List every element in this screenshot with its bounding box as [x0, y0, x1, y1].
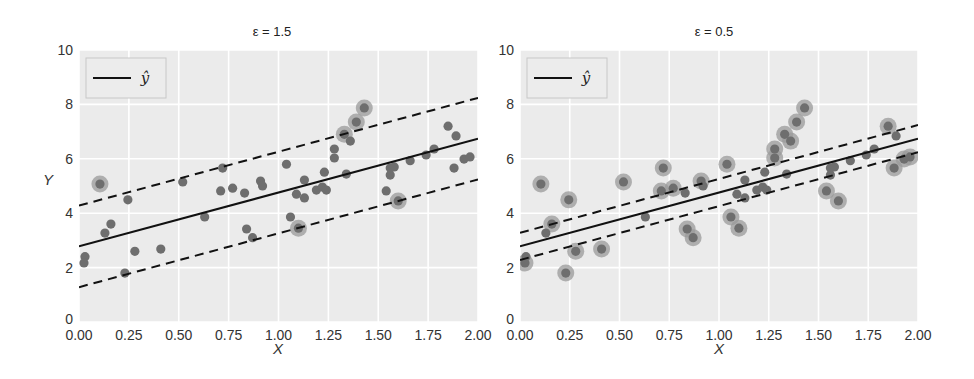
figure: ε = 1.5 0.000.250.500.751.001.251.501.75…: [0, 0, 974, 379]
data-point: [286, 212, 295, 221]
data-point: [382, 186, 391, 195]
data-point: [770, 144, 779, 153]
data-point: [564, 195, 573, 204]
data-point: [734, 224, 743, 233]
data-point: [218, 163, 227, 172]
data-point: [698, 181, 707, 190]
data-point: [760, 168, 769, 177]
x-tick-label: 1.25: [315, 327, 342, 343]
data-point: [792, 117, 801, 126]
legend-label: ŷ: [581, 69, 591, 87]
data-point: [79, 258, 88, 267]
x-tick-label: 0.25: [115, 327, 142, 343]
data-point: [216, 186, 225, 195]
y-tick-label: 2: [506, 260, 514, 276]
data-point: [830, 162, 839, 171]
data-point: [95, 179, 104, 188]
x-axis-label: X: [272, 340, 284, 357]
data-point: [770, 153, 779, 162]
data-point: [346, 137, 355, 146]
data-point: [822, 186, 831, 195]
y-tick-labels: 0246810: [57, 42, 73, 327]
data-point: [571, 247, 580, 256]
data-point: [465, 152, 474, 161]
y-tick-label: 6: [506, 151, 514, 167]
data-point: [258, 181, 267, 190]
y-tick-label: 10: [498, 42, 514, 58]
x-tick-label: 1.50: [805, 327, 832, 343]
x-tick-label: 0.00: [506, 327, 533, 343]
y-tick-label: 4: [65, 205, 73, 221]
data-point: [322, 185, 331, 194]
x-tick-label: 2.00: [904, 327, 931, 343]
y-tick-labels: 0246810: [498, 42, 514, 327]
data-point: [561, 268, 570, 277]
x-tick-label: 1.50: [365, 327, 392, 343]
y-tick-label: 8: [506, 96, 514, 112]
data-point: [292, 190, 301, 199]
data-point: [443, 122, 452, 131]
panel-epsilon-1-5: ε = 1.5 0.000.250.500.751.001.251.501.75…: [43, 24, 492, 357]
x-tick-label: 0.75: [656, 327, 683, 343]
panel-title: ε = 1.5: [253, 24, 292, 39]
data-point: [242, 224, 251, 233]
data-point: [360, 103, 369, 112]
legend: ŷ: [86, 58, 166, 98]
y-tick-label: 0: [65, 311, 73, 327]
data-point: [390, 162, 399, 171]
data-point: [732, 190, 741, 199]
x-tick-label: 0.00: [65, 327, 92, 343]
data-point: [541, 228, 550, 237]
data-point: [800, 103, 809, 112]
data-point: [130, 247, 139, 256]
data-point: [156, 245, 165, 254]
data-point: [228, 184, 237, 193]
data-point: [123, 195, 132, 204]
x-tick-label: 0.75: [215, 327, 242, 343]
data-point: [659, 163, 668, 172]
data-point: [178, 177, 187, 186]
data-point: [726, 212, 735, 221]
x-tick-label: 1.75: [855, 327, 882, 343]
x-axis-label: X: [713, 340, 725, 357]
data-point: [722, 160, 731, 169]
data-point: [300, 193, 309, 202]
data-point: [536, 179, 545, 188]
data-point: [240, 188, 249, 197]
data-point: [740, 193, 749, 202]
data-point: [689, 233, 698, 242]
data-point: [884, 122, 893, 131]
x-tick-label: 2.00: [464, 327, 491, 343]
data-point: [106, 219, 115, 228]
legend: ŷ: [527, 58, 607, 98]
x-tick-label: 1.25: [755, 327, 782, 343]
x-tick-label: 0.50: [165, 327, 192, 343]
data-point: [248, 233, 257, 242]
data-point: [330, 153, 339, 162]
data-point: [449, 163, 458, 172]
y-tick-label: 10: [57, 42, 73, 58]
y-tick-label: 6: [65, 151, 73, 167]
data-point: [890, 163, 899, 172]
data-point: [386, 171, 395, 180]
data-point: [834, 196, 843, 205]
data-point: [451, 131, 460, 140]
panel-epsilon-0-5: ε = 0.5 0.000.250.500.751.001.251.501.75…: [498, 24, 931, 357]
legend-label: ŷ: [140, 69, 150, 87]
data-point: [740, 175, 749, 184]
y-tick-label: 0: [506, 311, 514, 327]
data-point: [352, 117, 361, 126]
data-point: [330, 144, 339, 153]
x-tick-label: 0.25: [556, 327, 583, 343]
data-point: [300, 175, 309, 184]
data-point: [282, 160, 291, 169]
data-point: [657, 186, 666, 195]
data-point: [619, 177, 628, 186]
data-point: [892, 131, 901, 140]
y-tick-label: 4: [506, 205, 514, 221]
y-tick-label: 2: [65, 260, 73, 276]
y-tick-label: 8: [65, 96, 73, 112]
y-axis-label: Y: [43, 171, 54, 188]
x-tick-label: 0.50: [606, 327, 633, 343]
data-point: [100, 228, 109, 237]
